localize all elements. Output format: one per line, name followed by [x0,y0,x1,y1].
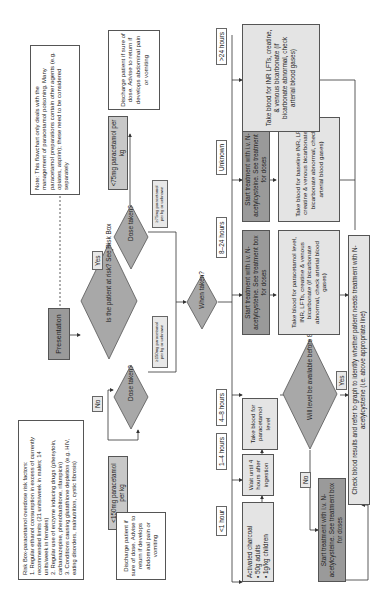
risk-item-3: 3. Conditions causing glutathione deplet… [64,425,78,575]
when-taken-diamond: When taken? [186,274,218,330]
activated-charcoal-box: Activated charcoal • 50g adults • 1g/kg … [242,502,274,582]
risk-box-title: Risk Box-paracetamol overdose risk facto… [22,462,29,575]
no-label: No [92,396,103,412]
flowchart-canvas: Note: This flowchart only deals with the… [0,0,377,600]
when-taken-text: When taken? [186,250,218,330]
time-label-unknown: Unknown [216,140,227,175]
will-level-yes-label: Yes [336,371,347,390]
start-nac-box-8-24h: Start treatment with i.v. N-acetylcystei… [242,230,270,335]
time-label-8-24h: 8–24 hours [216,217,227,258]
time-label-4-8h: 4–8 hours [216,389,227,426]
check-results-box: Check blood results and refer to graph t… [348,235,370,505]
start-nac-box-unknown: Start treatment with i.v. N-acetylcystei… [242,117,270,222]
take-blood-full-box: Take blood for paracetamol level, INR, L… [278,230,340,335]
take-blood-level-box: Take blood for paracetamol level [242,398,278,450]
high-dose-at-risk-label: ≥75mg paracetamol per kg or unknown [152,180,168,228]
take-blood-24h-box: Take blood for INR LFTs, creatine, & ven… [242,24,320,132]
will-level-no-label: No [300,472,311,488]
dose-taken-text: Dose taken? [113,336,149,430]
dose-taken-text: Dose taken? [113,176,149,270]
take-blood-baseline-box: Take blood for baseline INR, LFTs, creat… [278,117,340,222]
charcoal-item-children: • 1g/kg children [262,534,270,578]
risk-item-1: 1. Regular ethanol consumption in excess… [29,425,50,575]
start-nac-box-early: Start treatment with i.v. N-acetylcystei… [318,478,346,582]
high-dose-not-at-risk-label: ≥150mg paracetamol per kg or unknown [152,316,168,368]
discharge-box-at-risk: Discharge patient if sure of dose. Advis… [108,30,160,110]
low-dose-at-risk-label: <75mg paracetamol per kg [108,116,128,190]
charcoal-title: Activated charcoal [246,526,254,578]
risk-box: Risk Box-paracetamol overdose risk facto… [18,420,84,580]
yes-label: Yes [92,251,103,270]
discharge-box-not-at-risk: Discharge patient if sure of dose. Advis… [116,512,166,580]
time-label-gt24h: >24 hours [216,28,227,65]
wait-box: Wait until 4 hours after ingestion [242,454,274,496]
time-label-lt1h: <1 hour [216,506,227,536]
will-level-diamond: Will level be available before 8 hours [282,338,338,450]
presentation-box: Presentation [48,308,70,360]
time-label-1-4h: 1–4 hours [216,433,227,470]
charcoal-item-adults: • 50g adults [254,544,262,578]
risk-item-2: 2. Regular use of enzyme inducing drugs … [50,425,64,575]
dose-taken-diamond-not-at-risk: Dose taken? [113,364,149,430]
note-box: Note: This flowchart only deals with the… [30,45,80,195]
dose-taken-diamond-at-risk: Dose taken? [113,204,149,270]
